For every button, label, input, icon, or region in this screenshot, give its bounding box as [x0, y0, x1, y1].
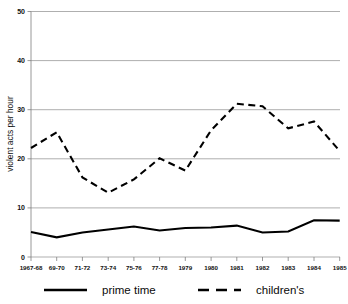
x-tick-label-4: 75-76: [126, 264, 142, 271]
y-tick-label-50: 50: [17, 8, 25, 15]
y-tick-label-30: 30: [17, 106, 25, 113]
chart-background: [0, 0, 348, 304]
line-chart: 50 40 30 20 10 0 violent acts per hour: [0, 0, 348, 304]
x-tick-label-12: 1985: [333, 264, 347, 271]
x-tick-label-11: 1984: [307, 264, 321, 271]
x-tick-label-9: 1982: [256, 264, 270, 271]
x-tick-label-7: 1980: [204, 264, 218, 271]
legend-label-prime-time: prime time: [102, 284, 156, 296]
legend-label-childrens: children's: [256, 284, 304, 296]
x-tick-label-3: 73-74: [100, 264, 116, 271]
x-tick-label-10: 1983: [281, 264, 295, 271]
y-axis-title: violent acts per hour: [5, 96, 15, 172]
y-tick-label-20: 20: [17, 155, 25, 162]
x-tick-label-5: 77-78: [152, 264, 168, 271]
chart-canvas: 50 40 30 20 10 0 violent acts per hour: [0, 0, 348, 304]
x-tick-label-2: 71-72: [74, 264, 90, 271]
y-tick-label-40: 40: [17, 57, 25, 64]
y-tick-label-0: 0: [21, 254, 25, 261]
x-tick-label-0: 1967-68: [20, 264, 43, 271]
x-tick-label-8: 1981: [230, 264, 244, 271]
x-tick-label-1: 69-70: [49, 264, 65, 271]
x-tick-label-6: 1979: [178, 264, 192, 271]
y-tick-label-10: 10: [17, 204, 25, 211]
